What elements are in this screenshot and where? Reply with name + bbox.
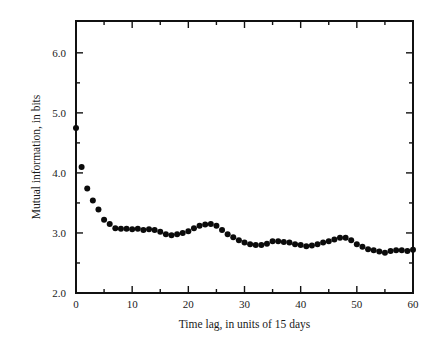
data-point bbox=[202, 222, 208, 228]
data-point bbox=[298, 242, 304, 248]
data-point bbox=[331, 237, 337, 243]
data-point bbox=[382, 250, 388, 256]
data-point bbox=[292, 241, 298, 247]
data-point bbox=[393, 247, 399, 253]
data-point bbox=[326, 238, 332, 244]
data-point bbox=[264, 241, 270, 247]
data-point bbox=[180, 230, 186, 236]
data-point bbox=[84, 186, 90, 192]
data-point bbox=[275, 238, 281, 244]
data-point bbox=[320, 240, 326, 246]
x-tick-label: 30 bbox=[239, 298, 251, 310]
x-tick-label: 0 bbox=[73, 298, 79, 310]
data-point bbox=[118, 226, 124, 232]
data-point bbox=[337, 235, 343, 241]
data-point bbox=[315, 241, 321, 247]
scatter-plot-svg: 0102030405060 2.03.04.05.06.0 Time lag, … bbox=[0, 0, 445, 341]
data-point bbox=[399, 247, 405, 253]
data-point bbox=[152, 227, 158, 233]
data-point bbox=[371, 247, 377, 253]
data-point bbox=[191, 225, 197, 231]
x-tick-label: 60 bbox=[408, 298, 420, 310]
data-point bbox=[168, 232, 174, 238]
figure-background bbox=[0, 0, 445, 341]
data-point bbox=[376, 249, 382, 255]
data-point bbox=[359, 244, 365, 250]
x-tick-label: 20 bbox=[183, 298, 195, 310]
data-point bbox=[213, 223, 219, 229]
data-point bbox=[236, 237, 242, 243]
data-point bbox=[101, 217, 107, 223]
data-point bbox=[73, 125, 79, 131]
data-point bbox=[388, 248, 394, 254]
data-point bbox=[242, 240, 248, 246]
data-point bbox=[124, 226, 130, 232]
data-point bbox=[95, 207, 101, 213]
data-point bbox=[354, 241, 360, 247]
data-point bbox=[79, 164, 85, 170]
data-point bbox=[404, 248, 410, 254]
y-tick-label: 5.0 bbox=[52, 107, 66, 119]
y-tick-label: 2.0 bbox=[52, 287, 66, 299]
data-point bbox=[258, 242, 264, 248]
data-point bbox=[230, 234, 236, 240]
data-point bbox=[303, 243, 309, 249]
data-point bbox=[309, 243, 315, 249]
x-tick-label: 40 bbox=[295, 298, 307, 310]
y-axis-title: Mutual information, in bits bbox=[30, 94, 43, 219]
data-point bbox=[247, 241, 253, 247]
data-point bbox=[90, 198, 96, 204]
data-point bbox=[129, 226, 135, 232]
y-tick-label: 3.0 bbox=[52, 227, 66, 239]
data-point bbox=[185, 228, 191, 234]
data-point bbox=[219, 227, 225, 233]
data-point bbox=[253, 242, 259, 248]
data-point bbox=[140, 227, 146, 233]
data-point bbox=[107, 221, 113, 227]
y-tick-label: 4.0 bbox=[52, 167, 66, 179]
data-point bbox=[174, 231, 180, 237]
data-point bbox=[112, 225, 118, 231]
y-tick-label: 6.0 bbox=[52, 47, 66, 59]
data-point bbox=[208, 221, 214, 227]
x-axis-title: Time lag, in units of 15 days bbox=[179, 318, 311, 331]
data-point bbox=[197, 223, 203, 229]
data-point bbox=[343, 235, 349, 241]
data-point bbox=[348, 237, 354, 243]
x-tick-label: 50 bbox=[351, 298, 363, 310]
data-point bbox=[410, 247, 416, 253]
chart-figure: 0102030405060 2.03.04.05.06.0 Time lag, … bbox=[0, 0, 445, 341]
x-tick-label: 10 bbox=[127, 298, 139, 310]
data-point bbox=[286, 240, 292, 246]
data-point bbox=[270, 238, 276, 244]
data-point bbox=[365, 246, 371, 252]
data-point bbox=[135, 226, 141, 232]
data-point bbox=[281, 239, 287, 245]
data-point bbox=[157, 229, 163, 235]
data-point bbox=[225, 231, 231, 237]
data-point bbox=[163, 231, 169, 237]
data-point bbox=[146, 226, 152, 232]
